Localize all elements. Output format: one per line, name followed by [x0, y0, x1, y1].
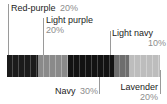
callout-light-purple-value: 20%: [46, 25, 93, 35]
callout-lavender-value: 20%: [104, 92, 158, 102]
callout-light-purple-label: Light purple: [46, 15, 93, 25]
leader-line-light-purple: [43, 18, 44, 55]
callout-navy-label: Navy: [55, 86, 76, 96]
callout-lavender-label: Lavender: [104, 82, 158, 92]
callout-navy-value: 30%: [80, 86, 98, 96]
bar-segment-lavender[interactable]: [129, 55, 160, 77]
callout-red-purple-value: 20%: [60, 3, 78, 13]
callout-light-purple: Light purple 20%: [46, 15, 93, 35]
callout-light-navy-label: Light navy: [112, 28, 166, 38]
callout-red-purple: Red-purple 20%: [11, 1, 78, 13]
callout-red-purple-label: Red-purple: [11, 3, 56, 13]
bar-segment-light-purple[interactable]: [38, 55, 69, 77]
stacked-bar: [7, 55, 160, 77]
bar-segment-navy[interactable]: [68, 55, 114, 77]
leader-line-lavender: [160, 70, 161, 94]
callout-navy: Navy 30%: [55, 84, 98, 96]
bar-segment-red-purple[interactable]: [7, 55, 38, 77]
leader-line-red-purple: [8, 4, 9, 55]
callout-light-navy-value: 10%: [112, 38, 166, 48]
bar-segment-light-navy[interactable]: [114, 55, 129, 77]
callout-lavender: Lavender 20%: [104, 82, 158, 102]
leader-line-light-navy: [110, 31, 111, 55]
callout-light-navy: Light navy 10%: [112, 28, 166, 48]
stacked-bar-chart: Red-purple 20% Light purple 20% Light na…: [0, 0, 167, 104]
